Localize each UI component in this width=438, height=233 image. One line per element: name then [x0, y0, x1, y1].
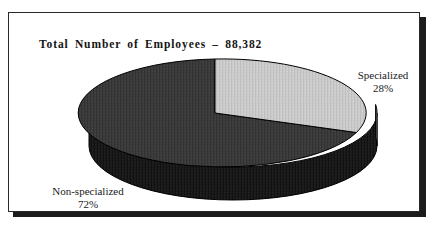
chart-frame: Total Number of Employees – 88,382	[8, 12, 420, 212]
slice-label-specialized-percent: 28%	[339, 82, 427, 95]
slice-label-non-specialized-percent: 72%	[33, 198, 143, 211]
slice-label-specialized-name: Specialized	[339, 69, 427, 82]
slice-label-specialized: Specialized 28%	[339, 69, 427, 94]
slice-label-non-specialized: Non-specialized 72%	[33, 185, 143, 210]
figure-root: Total Number of Employees – 88,382	[0, 0, 438, 233]
pie-top-faces	[78, 59, 366, 167]
light-slice-side-wall	[376, 105, 377, 147]
slice-label-non-specialized-name: Non-specialized	[33, 185, 143, 198]
pie-chart-3d	[9, 13, 421, 211]
